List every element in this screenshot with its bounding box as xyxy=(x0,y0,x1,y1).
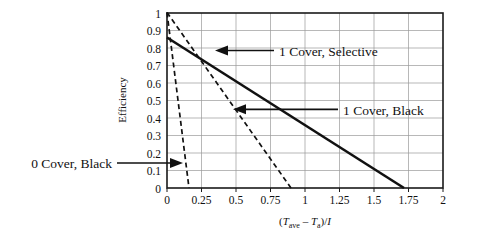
x-tick-label: 0.75 xyxy=(260,194,280,206)
x-tick-label: 1.75 xyxy=(398,194,418,206)
x-axis-tick-labels: 0 0.25 0.5 0.75 1 1.25 1.5 1.75 2 xyxy=(164,194,446,206)
y-tick-label: 0 xyxy=(155,183,161,195)
x-tick-label: 0 xyxy=(164,194,170,206)
efficiency-chart-figure: 1 0.9 0.8 0.7 0.6 0.5 0.4 0.3 0.2 0.1 0 … xyxy=(0,0,480,236)
y-tick-label: 0.7 xyxy=(147,60,162,72)
chart-canvas: 1 0.9 0.8 0.7 0.6 0.5 0.4 0.3 0.2 0.1 0 … xyxy=(0,0,480,236)
y-tick-label: 1 xyxy=(155,8,161,20)
y-tick-label: 0.8 xyxy=(147,43,162,55)
y-tick-label: 0.9 xyxy=(147,25,162,37)
annotation-label-selective: 1 Cover, Selective xyxy=(279,44,378,59)
x-tick-label: 1 xyxy=(302,194,308,206)
x-tick-label: 0.25 xyxy=(191,194,211,206)
y-tick-label: 0.3 xyxy=(147,130,162,142)
y-tick-label: 0.6 xyxy=(147,78,162,90)
y-axis-title: Efficiency xyxy=(116,77,128,123)
x-tick-label: 2 xyxy=(440,194,446,206)
annotation-label-zero-cover-black: 0 Cover, Black xyxy=(31,156,112,171)
y-tick-label: 0.4 xyxy=(147,113,162,125)
y-tick-label: 0.5 xyxy=(147,95,162,107)
x-axis-title-sub-ave: ave xyxy=(289,221,301,230)
y-tick-label: 0.2 xyxy=(147,148,162,160)
x-tick-label: 1.25 xyxy=(329,194,349,206)
annotation-label-one-cover-black: 1 Cover, Black xyxy=(343,103,424,118)
x-axis-title: (Tave – Ta)/I xyxy=(279,215,332,230)
y-tick-label: 0.1 xyxy=(147,165,162,177)
x-axis-title-irradiance: I xyxy=(326,215,332,227)
x-tick-label: 0.5 xyxy=(229,194,244,206)
y-axis-tick-labels: 1 0.9 0.8 0.7 0.6 0.5 0.4 0.3 0.2 0.1 0 xyxy=(147,8,162,195)
x-tick-label: 1.5 xyxy=(367,194,382,206)
x-axis-title-minus: – xyxy=(300,215,311,227)
